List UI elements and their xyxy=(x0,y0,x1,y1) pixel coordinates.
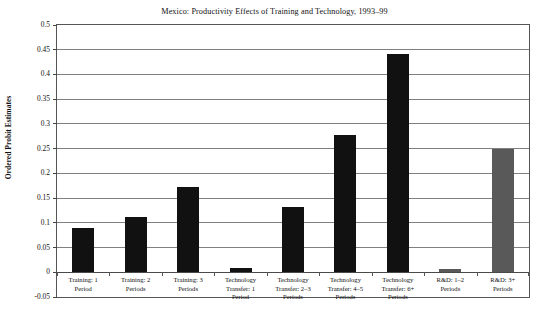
bar xyxy=(439,269,461,272)
y-tick-label: 0.35 xyxy=(37,94,50,103)
chart-figure: Mexico: Productivity Effects of Training… xyxy=(0,0,549,315)
chart-title: Mexico: Productivity Effects of Training… xyxy=(0,7,549,16)
bar xyxy=(72,228,94,273)
bars-layer xyxy=(57,25,529,297)
y-tick-label: 0.25 xyxy=(37,144,50,153)
y-axis-title: Ordered Probit Estimates xyxy=(2,0,16,274)
bar xyxy=(334,135,356,272)
bar xyxy=(282,207,304,273)
y-axis-title-text: Ordered Probit Estimates xyxy=(5,95,14,179)
bar xyxy=(177,187,199,272)
y-tick-label: 0 xyxy=(46,267,50,276)
bar xyxy=(230,268,252,272)
plot-area: 0.50.450.40.350.30.250.20.150.10.050-0.0… xyxy=(56,24,530,298)
y-tick-label: 0.5 xyxy=(41,20,50,29)
y-tick-label: -0.05 xyxy=(35,292,50,301)
y-tick-label: 0.05 xyxy=(37,243,50,252)
bar xyxy=(387,54,409,273)
y-tick-label: 0.3 xyxy=(41,119,50,128)
bar xyxy=(492,149,514,272)
y-tick-label: 0.1 xyxy=(41,218,50,227)
y-tick-label: 0.4 xyxy=(41,69,50,78)
bar xyxy=(125,217,147,272)
y-tick-label: 0.2 xyxy=(41,168,50,177)
y-tick-label: 0.15 xyxy=(37,193,50,202)
y-tick-label: 0.45 xyxy=(37,45,50,54)
